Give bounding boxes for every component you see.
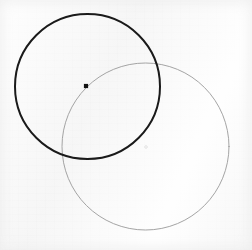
- circles-figure: [0, 0, 252, 250]
- dark-circle-center-dot: [84, 84, 88, 88]
- light-circle-center-dot: [145, 146, 148, 149]
- figure-canvas: [0, 0, 252, 250]
